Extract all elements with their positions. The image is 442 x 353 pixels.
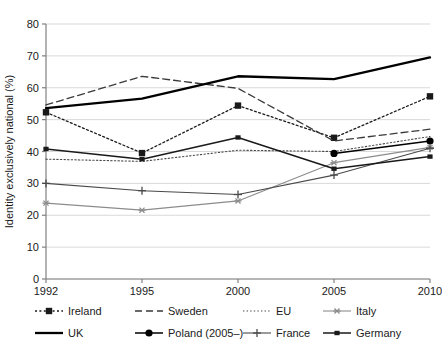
y-tick-label: 60 (27, 82, 39, 94)
marker-square (43, 109, 49, 115)
legend-label: Germany (356, 327, 401, 339)
marker-dash-square (331, 167, 336, 171)
y-tick-label: 50 (27, 114, 39, 126)
marker-dash-square (43, 147, 48, 151)
marker-circle (426, 137, 433, 144)
x-tick-label: 2005 (322, 285, 346, 297)
legend-item-germany[interactable]: Germany (322, 327, 412, 339)
legend-key-eu (242, 305, 272, 317)
y-tick-label: 70 (27, 50, 39, 62)
legend-label: France (276, 327, 310, 339)
marker-square (139, 150, 145, 156)
legend-label: Sweden (168, 305, 208, 317)
y-tick-label: 20 (27, 209, 39, 221)
y-axis-label: Identity exclusively national (%) (3, 75, 15, 228)
legend-row-1: IrelandSwedenEUItaly (0, 300, 442, 322)
y-tick-label: 40 (27, 146, 39, 158)
legend-item-sweden[interactable]: Sweden (134, 305, 242, 317)
legend-item-italy[interactable]: Italy (322, 305, 412, 317)
marker-dash-square (427, 154, 432, 158)
series-poland-2005 (330, 137, 433, 157)
legend-key-uk (34, 327, 64, 339)
legend-item-poland-2005[interactable]: Poland (2005–) (134, 327, 242, 339)
legend-key-germany (322, 327, 352, 339)
y-tick-label: 10 (27, 241, 39, 253)
legend-label: Ireland (68, 305, 102, 317)
legend-label: UK (68, 327, 83, 339)
series-france (42, 144, 434, 198)
legend-item-france[interactable]: France (242, 327, 322, 339)
marker-circle (330, 150, 337, 157)
x-tick-label: 1995 (130, 285, 154, 297)
legend-key-ireland (34, 305, 64, 317)
legend-label: Poland (2005–) (168, 327, 243, 339)
marker-square (235, 102, 241, 108)
x-tick-label: 1992 (34, 285, 58, 297)
legend-row-2: UKPoland (2005–)FranceGermany (0, 322, 442, 344)
series-line (46, 57, 430, 108)
marker-dash-square (334, 331, 339, 335)
y-tick-label: 30 (27, 177, 39, 189)
chart-svg: 0102030405060708019921995200020052010Ide… (0, 0, 442, 300)
series-line (46, 137, 430, 168)
marker-square (46, 308, 52, 314)
series-germany (43, 135, 432, 171)
marker-dash-square (235, 135, 240, 139)
marker-circle (145, 329, 152, 336)
legend-key-sweden (134, 305, 164, 317)
legend-item-ireland[interactable]: Ireland (34, 305, 134, 317)
legend-key-poland-2005 (134, 327, 164, 339)
y-tick-label: 0 (33, 273, 39, 285)
chart-legend: IrelandSwedenEUItaly UKPoland (2005–)Fra… (0, 300, 442, 353)
legend-key-italy (322, 305, 352, 317)
series-uk (46, 57, 430, 108)
marker-dash-square (139, 157, 144, 161)
y-tick-label: 80 (27, 18, 39, 30)
legend-item-uk[interactable]: UK (34, 327, 134, 339)
legend-label: Italy (356, 305, 376, 317)
x-tick-label: 2000 (226, 285, 250, 297)
marker-square (427, 93, 433, 99)
legend-item-eu[interactable]: EU (242, 305, 322, 317)
line-chart: 0102030405060708019921995200020052010Ide… (0, 0, 442, 353)
x-tick-label: 2010 (418, 285, 442, 297)
legend-label: EU (276, 305, 291, 317)
plot-area: 0102030405060708019921995200020052010Ide… (0, 0, 442, 300)
legend-key-france (242, 327, 272, 339)
